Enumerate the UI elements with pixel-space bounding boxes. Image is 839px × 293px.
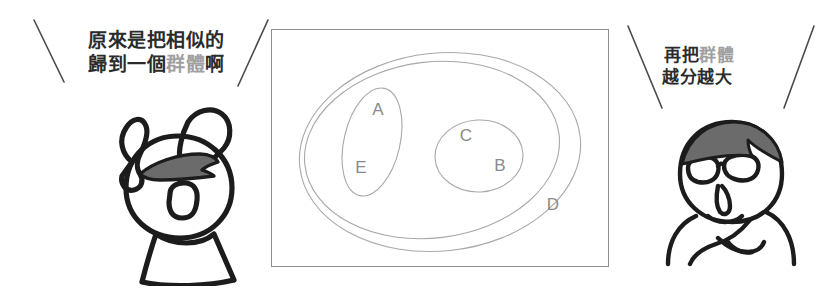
speech-left-line-2: 歸到一個群體啊: [88, 52, 225, 76]
hair: [140, 154, 218, 180]
venn-ellipse-d: [289, 39, 590, 265]
surprised-character-speech: 原來是把相似的 歸到一個群體啊: [88, 28, 225, 77]
body: [142, 234, 234, 286]
speech-right-line-1-part-1: 再把: [664, 45, 699, 65]
venn-label-e: E: [355, 158, 366, 177]
glasses-bridge: [718, 164, 724, 166]
speech-left-line-1: 原來是把相似的: [88, 28, 225, 52]
comic-panel: 原來是把相似的 歸到一個群體啊 再把群體 越分越大 A E C B: [0, 0, 839, 293]
venn-label-a: A: [372, 100, 384, 119]
surprised-character: [82, 96, 272, 286]
speech-left-highlight: 群體: [166, 53, 205, 75]
nose: [717, 186, 730, 214]
glasses-character-speech: 再把群體 越分越大: [664, 45, 734, 89]
venn-ellipse-inner-group: [294, 47, 570, 253]
venn-label-c: C: [460, 126, 472, 145]
venn-ellipse-cb: [433, 118, 525, 195]
venn-label-d: D: [547, 195, 559, 214]
venn-label-b: B: [494, 156, 505, 175]
speech-right-highlight: 群體: [699, 45, 734, 65]
venn-diagram-frame: A E C B D: [271, 29, 609, 267]
speech-right-line-2: 越分越大: [662, 67, 734, 89]
mouth: [169, 183, 197, 218]
divider-far-left: [28, 16, 72, 88]
glasses-character: [654, 112, 810, 272]
venn-diagram: A E C B D: [272, 30, 608, 266]
divider-left-inner: [232, 16, 276, 92]
speech-left-line-2-part-1: 歸到一個: [88, 53, 166, 75]
divider-far-right: [778, 22, 822, 114]
hand: [728, 242, 752, 253]
speech-right-line-1: 再把群體: [664, 45, 734, 67]
speech-left-line-2-part-3: 啊: [205, 53, 225, 75]
glasses-right-lens: [724, 155, 759, 181]
